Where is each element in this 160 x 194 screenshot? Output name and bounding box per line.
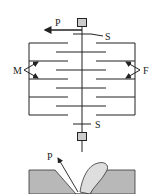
spring-leader-top [91, 34, 103, 36]
label-matrix: M [13, 65, 22, 76]
bottom-figure: P [29, 151, 135, 194]
label-spring-bottom: S [95, 119, 101, 130]
top-figure [24, 19, 140, 153]
matrix-pointers [24, 62, 38, 78]
fiber-pullout-diagram: P S M F S P [0, 0, 160, 194]
bottom-grip-block [78, 133, 87, 141]
label-spring-top: S [105, 31, 111, 42]
label-pull-bottom: P [47, 151, 53, 162]
label-pull-top: P [55, 17, 61, 28]
label-fiber: F [143, 65, 149, 76]
top-grip-block [78, 19, 87, 27]
fiber-pointers [126, 62, 140, 78]
